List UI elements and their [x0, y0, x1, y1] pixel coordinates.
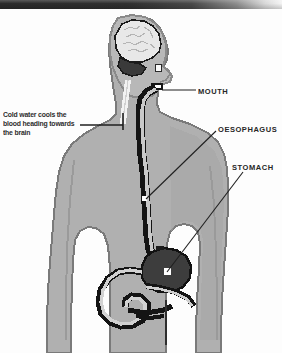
annotation-stomach: STOMACH: [232, 163, 274, 172]
eye: [155, 64, 161, 71]
anatomy-figure: [0, 0, 282, 353]
diagram-canvas: Cold water cools the blood heading towar…: [0, 0, 282, 353]
annotation-mouth: MOUTH: [198, 87, 228, 96]
annotation-cold-water: Cold water cools the blood heading towar…: [3, 110, 74, 138]
annotation-oesophagus: OESOPHAGUS: [218, 125, 277, 134]
brain: [115, 20, 161, 62]
